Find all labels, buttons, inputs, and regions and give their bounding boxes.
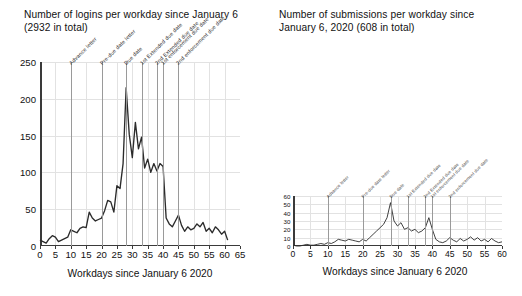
submissions-chart-panel: Number of submissions per workday since … [261, 0, 522, 296]
y-tick-label: 200 [20, 93, 36, 104]
x-tick-label: 35 [410, 249, 420, 259]
event-marker-line [425, 196, 426, 246]
x-tick-label: 25 [375, 249, 385, 259]
y-tick-label: 30 [284, 218, 291, 225]
x-tick-label: 45 [445, 249, 455, 259]
submissions-plot-area: 0510152025303540455055600102030405060Adv… [293, 196, 502, 246]
submissions-series-line [293, 196, 502, 246]
event-marker-line [126, 62, 127, 246]
event-marker-line [157, 62, 158, 246]
y-tick-label: 50 [25, 204, 36, 215]
event-marker-line [178, 62, 179, 246]
event-marker-line [163, 62, 164, 246]
x-tick-label: 55 [480, 249, 490, 259]
x-tick-label: 30 [393, 249, 403, 259]
x-tick-label: 10 [65, 249, 76, 260]
series-polyline [293, 203, 502, 246]
x-tick-label: 20 [358, 249, 368, 259]
x-tick-label: 45 [173, 249, 184, 260]
event-marker-line [142, 62, 143, 246]
submissions-x-axis-label: Workdays since January 6 2020 [283, 266, 507, 277]
event-marker-line [71, 62, 72, 246]
y-tick-label: 250 [20, 57, 36, 68]
y-tick-label: 50 [284, 201, 291, 208]
event-marker-line [102, 62, 103, 246]
x-tick-label: 0 [291, 249, 296, 259]
x-tick-label: 10 [323, 249, 333, 259]
logins-plot-area: 0510152025303540455055606505010015020025… [40, 62, 240, 246]
x-tick-label: 50 [189, 249, 200, 260]
x-tick-label: 60 [497, 249, 507, 259]
series-polyline [40, 88, 228, 243]
event-marker-line [450, 196, 451, 246]
submissions-chart-title: Number of submissions per workday since … [279, 8, 515, 34]
x-tick-label: 40 [158, 249, 169, 260]
x-tick-label: 25 [112, 249, 123, 260]
event-marker-line [363, 196, 364, 246]
y-tick-label: 60 [284, 193, 291, 200]
x-tick-label: 0 [37, 249, 42, 260]
x-tick-label: 15 [340, 249, 350, 259]
x-tick-label: 65 [235, 249, 246, 260]
x-tick-label: 15 [81, 249, 92, 260]
x-tick-label: 50 [462, 249, 472, 259]
y-tick-label: 100 [20, 167, 36, 178]
event-marker-line [432, 196, 433, 246]
x-tick-label: 40 [428, 249, 438, 259]
x-tick-label: 5 [308, 249, 313, 259]
event-marker-line [328, 196, 329, 246]
y-tick-label: 40 [284, 209, 291, 216]
x-tick-label: 35 [142, 249, 153, 260]
y-tick-label: 10 [284, 234, 291, 241]
logins-x-axis-label: Workdays since January 6 2020 [28, 268, 252, 279]
logins-chart-panel: Number of logins per workday since Janua… [0, 0, 261, 296]
event-marker-label: Pre-due date letter [360, 168, 391, 199]
figure-container: Number of logins per workday since Janua… [0, 0, 522, 296]
y-tick-label: 0 [287, 243, 290, 250]
x-tick-label: 30 [127, 249, 138, 260]
x-tick-label: 55 [204, 249, 215, 260]
y-tick-label: 150 [20, 130, 36, 141]
y-tick-label: 20 [284, 226, 291, 233]
x-tick-label: 60 [219, 249, 230, 260]
event-marker-line [408, 196, 409, 246]
event-marker-line [391, 196, 392, 246]
y-tick-label: 0 [31, 241, 36, 252]
x-tick-label: 20 [96, 249, 107, 260]
x-tick-label: 5 [53, 249, 58, 260]
